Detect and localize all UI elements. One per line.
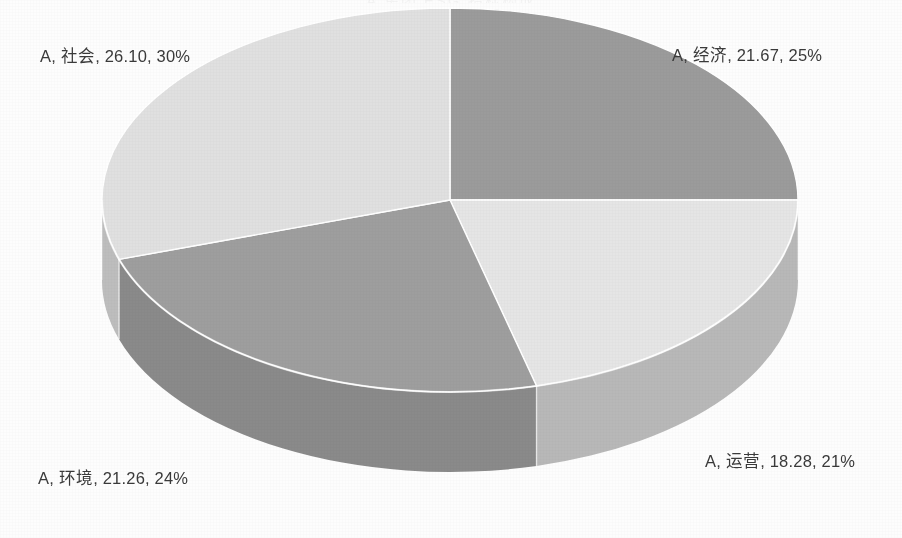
slice-label-yunying: A, 运营, 18.28, 21% [705,448,855,472]
slice-label-huanjing: A, 环境, 21.26, 24% [38,465,188,489]
pie-slice-经济[interactable]: A, 经济, 21.67, 25% [450,8,798,200]
chart-page: A 集团 ESG 指标构成 [0,0,902,538]
slice-label-jingji: A, 经济, 21.67, 25% [672,42,822,66]
slice-label-shehui: A, 社会, 26.10, 30% [40,43,190,67]
